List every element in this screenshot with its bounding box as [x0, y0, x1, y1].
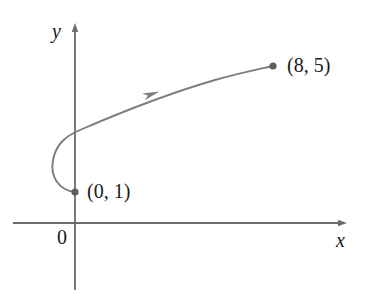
- parametric-curve-figure: [0, 0, 365, 297]
- y-axis-label: y: [52, 21, 61, 41]
- start-point-label: (0, 1): [87, 181, 130, 201]
- end-point-label: (8, 5): [287, 55, 330, 75]
- end-point-dot: [269, 62, 276, 69]
- origin-label: 0: [57, 227, 67, 247]
- x-axis-label: x: [336, 230, 345, 250]
- figure-canvas: y x 0 (0, 1) (8, 5): [0, 0, 365, 297]
- points-group: [71, 62, 276, 195]
- curve-group: [52, 66, 273, 192]
- start-point-dot: [71, 188, 78, 195]
- parametric-curve-path: [52, 66, 273, 192]
